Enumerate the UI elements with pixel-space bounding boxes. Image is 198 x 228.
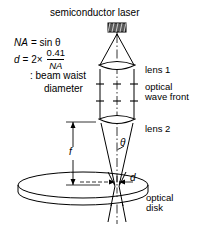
formula-na-symbol: NA xyxy=(14,37,28,48)
formula-line-beamwaist: : beam waist xyxy=(14,69,86,82)
formula-block: NA = sin θ d = 2× 0.41 NA : beam waist d… xyxy=(14,36,86,95)
formula-fraction-denominator: NA xyxy=(47,59,64,71)
optical-wave-front-label-line2: wave front xyxy=(145,92,189,102)
optical-wave-front-label: optical wave front xyxy=(145,82,189,102)
optical-disk-label-line2: disk xyxy=(146,203,173,213)
page-title: semiconductor laser xyxy=(50,8,139,19)
lens-2 xyxy=(99,116,135,124)
optical-pickup-diagram: semiconductor laser NA = sin θ d = 2× 0.… xyxy=(0,0,198,228)
optical-disk xyxy=(18,172,148,205)
formula-line-diameter: diameter xyxy=(14,82,86,95)
formula-fraction-numerator: 0.41 xyxy=(45,48,68,59)
beam-waist-label: d xyxy=(130,173,136,184)
lens-1-label: lens 1 xyxy=(145,65,170,75)
formula-beam-waist-text: : beam waist xyxy=(30,70,86,81)
formula-d-operator: = 2× xyxy=(23,54,43,65)
formula-line-d: d = 2× 0.41 NA xyxy=(14,49,86,69)
formula-d-symbol: d xyxy=(14,54,20,65)
focal-length-label: f xyxy=(69,147,72,158)
formula-fraction: 0.41 NA xyxy=(45,48,68,70)
lens-1 xyxy=(99,62,135,70)
formula-diameter-text: diameter xyxy=(44,83,83,94)
optical-disk-label: optical disk xyxy=(146,193,173,213)
half-angle-theta-label: θ xyxy=(120,138,125,149)
lens-2-label: lens 2 xyxy=(145,124,170,134)
